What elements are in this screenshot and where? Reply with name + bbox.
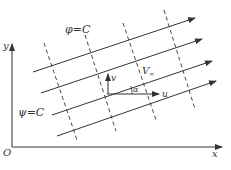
streamlines [33,18,216,136]
equipotential-label: φ=C [65,23,91,36]
velocity-label: V∞ [142,65,154,77]
alpha-label: α [133,85,139,94]
flow-field-diagram: φ=C ψ=C y O x v u α V∞ [0,0,231,170]
streamline-label: ψ=C [18,106,45,119]
origin-label: O [3,147,11,158]
u-label: u [162,89,168,99]
y-axis-label: y [2,40,9,51]
v-label: v [111,73,116,83]
angle-arc [131,86,132,94]
equipotential-line-1 [44,43,77,140]
streamline-1 [33,18,195,72]
axes [12,44,222,147]
streamline-3 [52,61,212,115]
streamline-2 [41,39,202,93]
velocity-subscript: ∞ [149,70,154,77]
x-axis-label: x [212,148,218,159]
